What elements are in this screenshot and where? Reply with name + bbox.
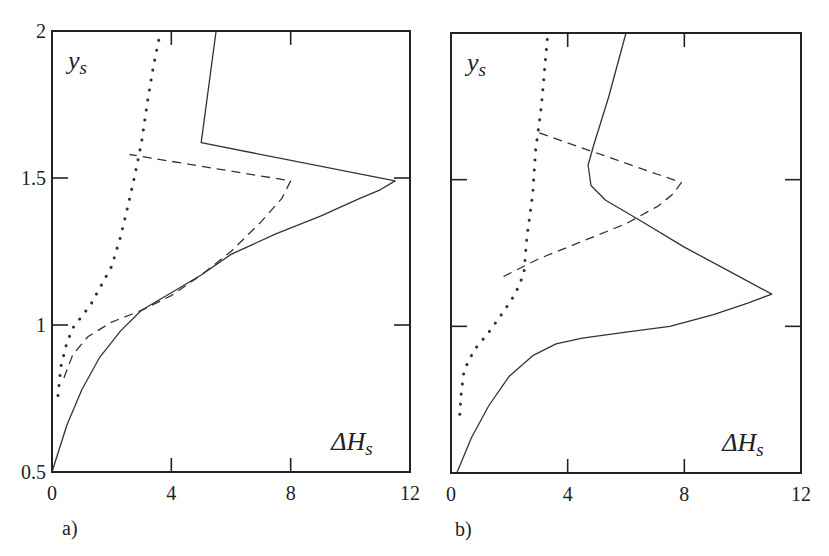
y-tick-label: 1.5 xyxy=(21,167,46,189)
x-axis-label: ΔHs xyxy=(721,428,763,460)
x-tick-label: 8 xyxy=(679,483,689,505)
panel-label: a) xyxy=(62,517,78,540)
x-tick-label: 8 xyxy=(286,482,296,504)
x-tick-label: 12 xyxy=(791,483,811,505)
figure: 048120.511.52ysΔHsa) 04812ysΔHsb) xyxy=(0,0,829,556)
series-dotted xyxy=(58,37,159,396)
y-tick-label: 0.5 xyxy=(21,461,46,483)
y-axis-label: ys xyxy=(464,48,486,80)
x-tick-label: 0 xyxy=(47,482,57,504)
series-dashed xyxy=(504,133,682,277)
panel-label: b) xyxy=(455,518,472,541)
x-tick-label: 4 xyxy=(563,483,573,505)
x-tick-label: 0 xyxy=(446,483,456,505)
plot-frame xyxy=(451,33,801,473)
panel-b: 04812ysΔHsb) xyxy=(446,33,811,541)
series-dotted xyxy=(460,39,548,414)
x-tick-label: 4 xyxy=(166,482,176,504)
y-axis-label: ys xyxy=(65,46,87,78)
series-dashed xyxy=(64,155,291,378)
x-axis-label: ΔHs xyxy=(330,427,372,459)
panel-a: 048120.511.52ysΔHsa) xyxy=(21,20,420,540)
series-solid xyxy=(457,33,772,473)
x-tick-label: 12 xyxy=(400,482,420,504)
y-tick-label: 1 xyxy=(36,314,46,336)
y-tick-label: 2 xyxy=(36,20,46,42)
series-solid xyxy=(52,31,395,472)
